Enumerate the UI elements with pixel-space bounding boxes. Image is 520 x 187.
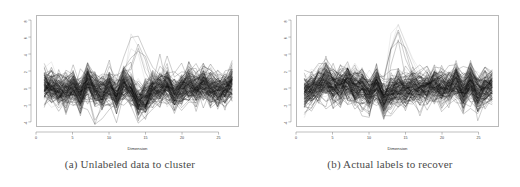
svg-text:5: 5 xyxy=(72,136,74,140)
svg-text:0: 0 xyxy=(24,88,28,90)
svg-text:-4: -4 xyxy=(24,122,28,125)
svg-text:5: 5 xyxy=(332,136,334,140)
plot-area-a xyxy=(36,15,239,127)
panel-caption-a: (a) Unlabeled data to cluster xyxy=(0,158,260,170)
svg-text:8: 8 xyxy=(284,20,288,22)
svg-text:0: 0 xyxy=(35,136,37,140)
parallel-coordinates-plot-b xyxy=(297,16,498,126)
figure-panel-b: 0510152025-4-202468Dimension (b) Actual … xyxy=(260,0,520,187)
svg-text:20: 20 xyxy=(440,136,444,140)
svg-text:8: 8 xyxy=(24,20,28,22)
svg-text:25: 25 xyxy=(217,136,221,140)
svg-text:10: 10 xyxy=(367,136,371,140)
svg-text:20: 20 xyxy=(180,136,184,140)
svg-text:6: 6 xyxy=(24,37,28,39)
svg-text:-4: -4 xyxy=(284,122,288,125)
svg-text:-2: -2 xyxy=(24,105,28,108)
svg-text:2: 2 xyxy=(24,71,28,73)
svg-text:4: 4 xyxy=(284,54,288,56)
figure-container: 0510152025-4-202468Dimension (a) Unlabel… xyxy=(0,0,520,187)
svg-text:4: 4 xyxy=(24,54,28,56)
svg-text:15: 15 xyxy=(404,136,408,140)
svg-text:Dimension: Dimension xyxy=(388,146,408,151)
figure-panel-a: 0510152025-4-202468Dimension (a) Unlabel… xyxy=(0,0,260,187)
panel-caption-b: (b) Actual labels to recover xyxy=(260,158,520,170)
plot-area-b xyxy=(296,15,499,127)
svg-text:6: 6 xyxy=(284,37,288,39)
svg-text:25: 25 xyxy=(477,136,481,140)
parallel-coordinates-plot-a xyxy=(37,16,238,126)
svg-text:Dimension: Dimension xyxy=(128,146,148,151)
svg-text:10: 10 xyxy=(107,136,111,140)
svg-text:15: 15 xyxy=(144,136,148,140)
svg-text:0: 0 xyxy=(295,136,297,140)
svg-text:0: 0 xyxy=(284,88,288,90)
svg-text:2: 2 xyxy=(284,71,288,73)
svg-text:-2: -2 xyxy=(284,105,288,108)
